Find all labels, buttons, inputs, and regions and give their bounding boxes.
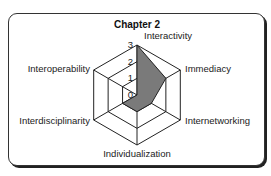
tick-label: 3 <box>128 39 133 50</box>
axis-label-individualization: Individualization <box>103 148 171 159</box>
axis-label-internetworking: Internetworking <box>185 115 250 126</box>
axis-label-immediacy: Immediacy <box>185 63 231 74</box>
radar-chart: Chapter 2 0123 InteractivityImmediacyInt… <box>0 0 271 176</box>
axis-label-interdisciplinarity: Interdisciplinarity <box>19 115 90 126</box>
radial-ticks: 0123 <box>128 39 133 100</box>
axis-label-interoperability: Interoperability <box>28 63 91 74</box>
tick-label: 0 <box>128 89 133 100</box>
chart-title: Chapter 2 <box>114 19 161 30</box>
axis-labels: InteractivityImmediacyInternetworkingInd… <box>19 30 250 159</box>
tick-label: 2 <box>128 56 133 67</box>
tick-label: 1 <box>128 72 133 83</box>
axis-label-interactivity: Interactivity <box>144 30 192 41</box>
